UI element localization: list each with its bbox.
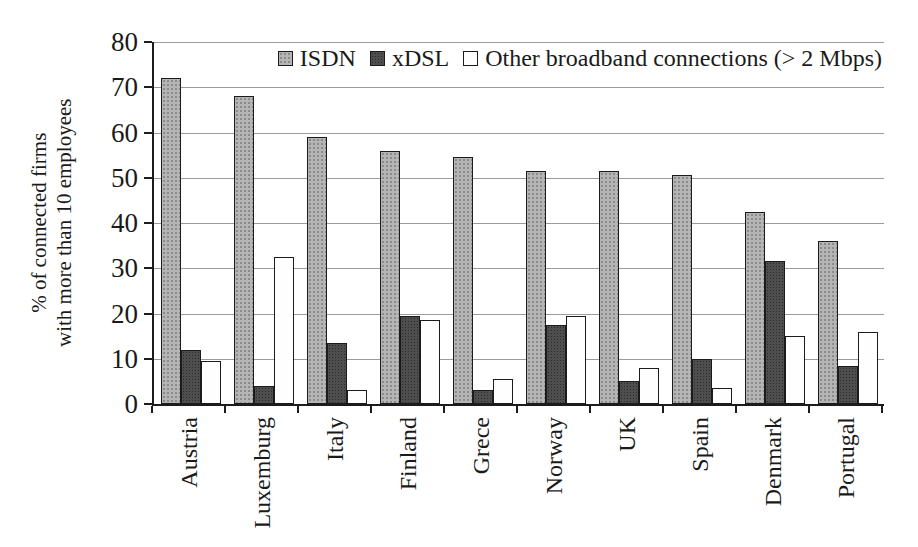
y-tick-label-10: 10 <box>74 346 138 373</box>
y-tick-mark-30 <box>144 267 152 269</box>
bar-norway-xdsl <box>546 325 566 404</box>
x-tick-mark-6 <box>589 406 591 413</box>
bar-spain-xdsl <box>692 359 712 404</box>
x-tick-mark-10 <box>881 406 883 413</box>
bar-austria-xdsl <box>181 350 201 404</box>
y-tick-mark-0 <box>144 403 152 405</box>
x-tick-mark-3 <box>370 406 372 413</box>
legend-label: ISDN <box>300 46 356 70</box>
x-label-finland: Finland <box>395 417 421 490</box>
legend-swatch-isdn <box>278 51 293 66</box>
x-label-uk: UK <box>614 417 640 452</box>
x-tick-mark-2 <box>297 406 299 413</box>
y-axis-title-text: % of connected firms with more than 10 e… <box>27 99 77 347</box>
x-label-portugal: Portugal <box>833 417 859 498</box>
bar-austria-isdn <box>161 78 181 404</box>
gridline-80 <box>154 42 884 43</box>
legend-item-isdn: ISDN <box>278 46 356 70</box>
bar-spain-other <box>712 388 732 404</box>
bar-denmark-isdn <box>745 212 765 404</box>
bar-portugal-isdn <box>818 241 838 404</box>
plot-area: ISDNxDSLOther broadband connections (> 2… <box>152 42 884 406</box>
bar-grece-xdsl <box>473 390 493 404</box>
y-tick-label-60: 60 <box>74 120 138 147</box>
bar-italy-xdsl <box>327 343 347 404</box>
y-tick-mark-60 <box>144 132 152 134</box>
x-label-italy: Italy <box>322 417 348 461</box>
y-tick-label-20: 20 <box>74 301 138 328</box>
x-label-grece: Grece <box>468 417 494 474</box>
gridline-70 <box>154 87 884 88</box>
x-label-luxemburg: Luxemburg <box>249 417 275 529</box>
legend: ISDNxDSLOther broadband connections (> 2… <box>278 46 882 70</box>
y-tick-label-40: 40 <box>74 210 138 237</box>
y-tick-mark-40 <box>144 222 152 224</box>
x-label-denmark: Denmark <box>760 417 786 506</box>
y-tick-label-80: 80 <box>74 29 138 56</box>
gridline-50 <box>154 178 884 179</box>
y-tick-mark-10 <box>144 358 152 360</box>
y-tick-label-50: 50 <box>74 165 138 192</box>
x-tick-mark-4 <box>443 406 445 413</box>
y-tick-label-0: 0 <box>74 391 138 418</box>
bar-portugal-xdsl <box>838 366 858 404</box>
bar-uk-isdn <box>599 171 619 404</box>
bar-finland-xdsl <box>400 316 420 404</box>
bar-luxemburg-other <box>274 257 294 404</box>
bar-finland-isdn <box>380 151 400 404</box>
x-label-norway: Norway <box>541 417 567 494</box>
y-tick-label-70: 70 <box>74 74 138 101</box>
bar-finland-other <box>420 320 440 404</box>
y-tick-mark-20 <box>144 313 152 315</box>
legend-label: xDSL <box>392 46 449 70</box>
legend-swatch-xdsl <box>370 51 385 66</box>
legend-label: Other broadband connections (> 2 Mbps) <box>485 46 882 70</box>
bar-uk-other <box>639 368 659 404</box>
bar-portugal-other <box>858 332 878 404</box>
gridline-40 <box>154 223 884 224</box>
bar-norway-other <box>566 316 586 404</box>
y-axis-title-line1: % of connected firms <box>27 99 52 347</box>
bar-luxemburg-isdn <box>234 96 254 404</box>
x-label-austria: Austria <box>176 417 202 488</box>
x-tick-mark-9 <box>808 406 810 413</box>
bar-grece-isdn <box>453 157 473 404</box>
x-tick-mark-7 <box>662 406 664 413</box>
x-tick-mark-5 <box>516 406 518 413</box>
legend-swatch-other <box>463 51 478 66</box>
bar-luxemburg-xdsl <box>254 386 274 404</box>
x-tick-mark-1 <box>224 406 226 413</box>
bar-denmark-other <box>785 336 805 404</box>
gridline-60 <box>154 133 884 134</box>
x-tick-mark-0 <box>151 406 153 413</box>
x-tick-mark-8 <box>735 406 737 413</box>
x-axis-labels: AustriaLuxemburgItalyFinlandGreceNorwayU… <box>152 413 882 547</box>
bar-norway-isdn <box>526 171 546 404</box>
bar-uk-xdsl <box>619 381 639 404</box>
y-tick-mark-70 <box>144 86 152 88</box>
bar-italy-other <box>347 390 367 404</box>
bar-denmark-xdsl <box>765 261 785 404</box>
legend-item-other: Other broadband connections (> 2 Mbps) <box>463 46 882 70</box>
bar-grece-other <box>493 379 513 404</box>
y-tick-mark-50 <box>144 177 152 179</box>
bar-chart-figure: % of connected firms with more than 10 e… <box>0 0 918 547</box>
y-tick-mark-80 <box>144 41 152 43</box>
bar-spain-isdn <box>672 175 692 404</box>
bar-italy-isdn <box>307 137 327 404</box>
bar-austria-other <box>201 361 221 404</box>
x-label-spain: Spain <box>687 417 713 472</box>
legend-item-xdsl: xDSL <box>370 46 449 70</box>
y-tick-label-30: 30 <box>74 255 138 282</box>
